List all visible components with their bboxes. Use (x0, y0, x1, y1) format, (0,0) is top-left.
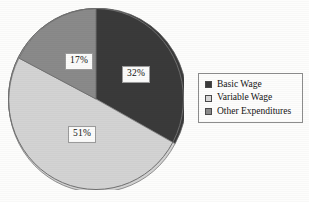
legend-item-other-expenditures[interactable]: Other Expenditures (205, 105, 297, 118)
legend-swatch-icon-variable-wage (205, 95, 212, 102)
slice-value-label-other-expenditures: 17% (65, 53, 93, 70)
slice-value-label-basic-wage: 32% (122, 66, 150, 83)
pie-chart-figure: 32% 51% 17% Basic Wage Variable Wage Oth… (0, 0, 309, 202)
legend-swatch-icon-basic-wage (205, 81, 212, 88)
legend-swatch-icon-other-expenditures (205, 108, 212, 115)
legend-label-basic-wage: Basic Wage (217, 80, 262, 90)
slice-value-label-variable-wage: 51% (68, 126, 96, 143)
legend-item-basic-wage[interactable]: Basic Wage (205, 78, 297, 91)
pie-chart-area (8, 8, 184, 190)
legend-item-variable-wage[interactable]: Variable Wage (205, 92, 297, 105)
legend-label-other-expenditures: Other Expenditures (217, 107, 291, 117)
legend-label-variable-wage: Variable Wage (217, 93, 272, 103)
chart-legend: Basic Wage Variable Wage Other Expenditu… (198, 73, 303, 123)
pie-chart-svg (8, 8, 184, 190)
